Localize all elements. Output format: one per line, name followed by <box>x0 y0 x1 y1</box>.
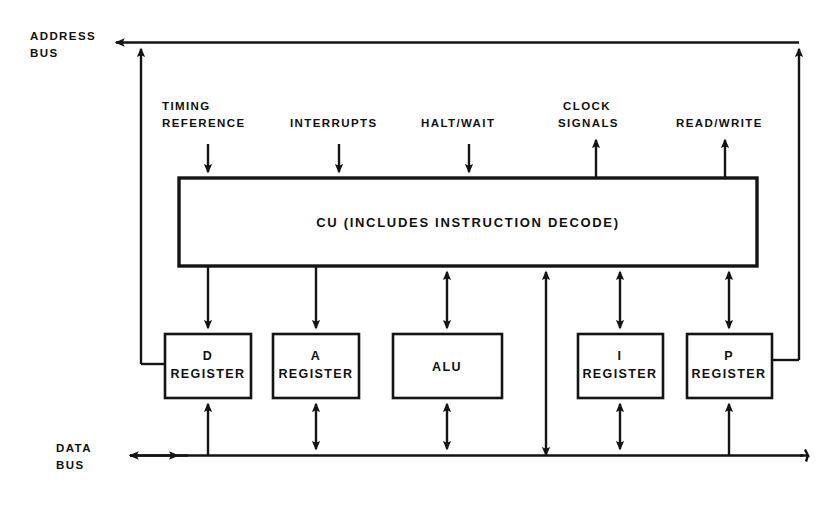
d-register-label-line1: D <box>203 349 213 363</box>
i-register-box <box>578 334 663 398</box>
clock-signals-label-line2: SIGNALS <box>558 117 619 129</box>
data-bus-group <box>130 450 808 462</box>
timing-reference-label-line1: TIMING <box>162 100 211 112</box>
timing-reference-label-line2: REFERENCE <box>162 117 246 129</box>
unit-data-bus-connections <box>208 404 729 455</box>
i-register-label-line1: I <box>618 349 623 363</box>
cpu-block-diagram: ADDRESS BUS DATA BUS TIMING REFERENCE IN… <box>0 0 839 505</box>
data-bus-label-line1: DATA <box>56 442 92 454</box>
halt-wait-label: HALT/WAIT <box>421 117 495 129</box>
interrupts-label: INTERRUPTS <box>290 117 377 129</box>
data-bus-label-line2: BUS <box>56 459 84 471</box>
data-bus-break-symbol <box>800 450 808 462</box>
a-register-label-line2: REGISTER <box>278 367 353 381</box>
read-write-label: READ/WRITE <box>676 117 763 129</box>
p-register-label-line2: REGISTER <box>691 367 766 381</box>
a-register-box <box>273 334 359 398</box>
d-register-box <box>165 334 251 398</box>
signal-arrows-group <box>208 140 725 178</box>
a-register-label-line1: A <box>311 349 321 363</box>
p-register-label-line1: P <box>724 349 734 363</box>
address-bus-label-line2: BUS <box>30 47 58 59</box>
clock-signals-label-line1: CLOCK <box>563 100 611 112</box>
i-register-label-line2: REGISTER <box>582 367 657 381</box>
diagram-canvas: ADDRESS BUS DATA BUS TIMING REFERENCE IN… <box>0 0 839 505</box>
alu-label: ALU <box>432 360 462 374</box>
d-register-label-line2: REGISTER <box>170 367 245 381</box>
p-register-box <box>687 334 772 398</box>
control-unit-label: CU (INCLUDES INSTRUCTION DECODE) <box>316 215 620 230</box>
address-bus-label-line1: ADDRESS <box>30 30 96 42</box>
